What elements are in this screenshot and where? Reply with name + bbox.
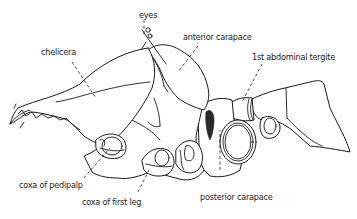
label-posterior-carapace: posterior carapace [200, 192, 273, 202]
label-first-abdominal-tergite: 1st abdominal tergite [252, 52, 335, 62]
coxa-of-pedipalp [96, 134, 126, 159]
label-eyes: eyes [139, 10, 157, 20]
first-abdominal-tergite [232, 98, 254, 121]
label-anterior-carapace: anterior carapace [183, 32, 252, 42]
label-coxa-of-pedipalp: coxa of pedipalp [19, 180, 83, 190]
coxa-ring-posterior [220, 116, 280, 164]
coxae-legs-2-3 [176, 141, 203, 173]
anatomy-diagram: eyes chelicera anterior carapace 1st abd… [0, 0, 357, 219]
label-coxa-of-first-leg: coxa of first leg [82, 197, 141, 207]
label-chelicera: chelicera [41, 47, 76, 57]
